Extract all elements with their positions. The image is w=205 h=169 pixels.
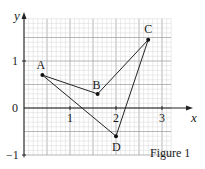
y-tick-label: 1 <box>12 54 18 68</box>
point-c <box>146 38 150 42</box>
y-tick-label: −1 <box>6 148 19 162</box>
y-axis-arrow-icon <box>22 12 27 19</box>
point-label-b: B <box>93 78 101 92</box>
segment-bc <box>98 40 149 94</box>
point-label-c: C <box>144 22 152 36</box>
point-b <box>96 92 100 96</box>
x-axis-label: x <box>190 110 197 125</box>
figure-caption: Figure 1 <box>150 146 190 161</box>
point-label-a: A <box>36 58 45 72</box>
point-d <box>114 134 118 138</box>
x-tick-label: 2 <box>113 111 119 125</box>
y-axis-label: y <box>12 8 20 23</box>
point-a <box>40 73 44 77</box>
coordinate-plot: 12310−1yxABCD <box>0 0 205 169</box>
point-label-d: D <box>112 140 121 154</box>
x-tick-label: 3 <box>159 111 165 125</box>
x-tick-label: 1 <box>67 111 73 125</box>
labels: 12310−1yxABCD <box>6 8 197 162</box>
y-tick-label: 0 <box>12 101 18 115</box>
